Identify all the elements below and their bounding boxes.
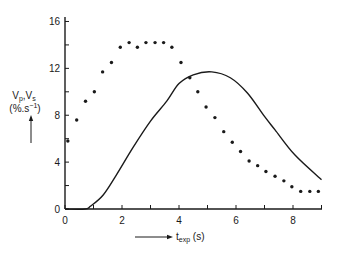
x-tick-label: 6: [233, 215, 239, 226]
data-point: [273, 174, 276, 177]
y-axis-unit: (%.s−1): [9, 102, 40, 114]
data-point: [101, 70, 104, 73]
x-label-unit: (s): [190, 231, 204, 242]
y-ticks: 0481216: [49, 16, 69, 215]
y-tick-label: 0: [54, 204, 60, 215]
y-tick-label: 8: [54, 110, 60, 121]
x-tick-label: 8: [290, 215, 296, 226]
chart: 02468 0481216 Vp,Vs (%.s−1) texp (s): [0, 0, 347, 255]
data-point: [179, 61, 182, 64]
x-tick-label: 2: [119, 215, 125, 226]
data-point: [110, 61, 113, 64]
data-point: [317, 190, 320, 193]
data-point: [188, 76, 191, 79]
y-tick-label: 12: [49, 63, 61, 74]
data-point: [204, 105, 207, 108]
data-point: [136, 46, 139, 49]
data-point: [290, 185, 293, 188]
data-point: [231, 140, 234, 143]
x-tick-label: 4: [176, 215, 182, 226]
data-point: [196, 90, 199, 93]
data-point: [127, 41, 130, 44]
data-point: [282, 179, 285, 182]
series-vp-line: [65, 72, 322, 209]
y-tick-label: 16: [49, 16, 61, 27]
y-axis-arrow-icon: [29, 115, 33, 143]
data-point: [264, 170, 267, 173]
data-point: [222, 130, 225, 133]
data-point: [247, 159, 250, 162]
data-point: [75, 118, 78, 121]
y-unit-close: ): [37, 103, 40, 114]
data-point: [256, 164, 259, 167]
y-label-v2: ,V: [23, 90, 33, 101]
data-point: [144, 41, 147, 44]
y-label-sub-s: s: [32, 95, 36, 102]
data-point: [162, 41, 165, 44]
x-ticks: 02468: [62, 205, 321, 226]
data-point: [213, 116, 216, 119]
data-point: [239, 150, 242, 153]
x-tick-label: 0: [62, 215, 68, 226]
plot-area: [65, 41, 322, 209]
data-point: [84, 99, 87, 102]
series-vs-dots: [66, 41, 320, 193]
x-label-sub-exp: exp: [179, 236, 190, 244]
y-unit-main: (%.s: [9, 103, 29, 114]
data-point: [308, 190, 311, 193]
data-point: [299, 190, 302, 193]
y-unit-sup: −1: [29, 102, 37, 109]
data-point: [153, 41, 156, 44]
x-axis-label: texp (s): [176, 231, 205, 244]
data-point: [170, 46, 173, 49]
data-point: [66, 139, 69, 142]
data-point: [93, 90, 96, 93]
data-point: [119, 46, 122, 49]
y-tick-label: 4: [54, 157, 60, 168]
x-axis-arrow-icon: [135, 235, 173, 239]
